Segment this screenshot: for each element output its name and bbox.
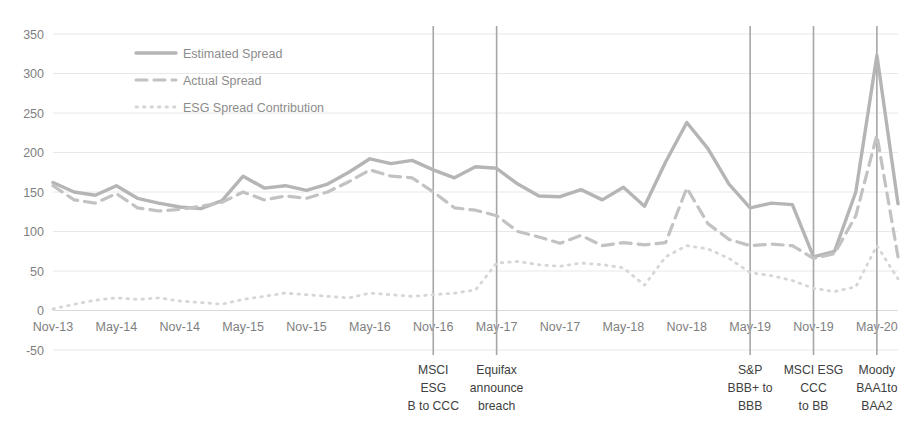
x-tick-label: May-16 — [349, 320, 391, 334]
annotation-text: Moody — [859, 363, 896, 377]
annotation-text: BBB+ to — [728, 381, 773, 395]
x-axis-tick-labels: Nov-13May-14Nov-14May-15Nov-15May-16Nov-… — [33, 320, 898, 334]
annotation-text: BBB — [738, 399, 762, 413]
x-tick-label: Nov-15 — [286, 320, 326, 334]
chart-legend: Estimated SpreadActual SpreadESG Spread … — [136, 47, 324, 115]
annotation-text: announce — [470, 381, 524, 395]
gridlines — [53, 34, 898, 350]
annotation-text: breach — [478, 399, 515, 413]
annotation-text: to BB — [799, 399, 829, 413]
annotation-text: B to CCC — [408, 399, 460, 413]
y-tick-label: 300 — [23, 67, 44, 81]
event-annotations: MSCIESGB to CCCEquifaxannouncebreachS&PB… — [408, 363, 898, 413]
y-tick-label: 50 — [30, 265, 44, 279]
series-line-solid — [53, 55, 898, 256]
y-tick-label: 200 — [23, 146, 44, 160]
annotation-text: Equifax — [476, 363, 517, 377]
spread-chart: -50050100150200250300350 Nov-13May-14Nov… — [0, 0, 911, 442]
legend-label: Actual Spread — [183, 74, 262, 88]
x-tick-label: May-15 — [222, 320, 264, 334]
x-tick-label: Nov-13 — [33, 320, 73, 334]
annotation-text: BAA1to — [856, 381, 898, 395]
y-tick-label: 100 — [23, 225, 44, 239]
x-tick-label: May-18 — [603, 320, 645, 334]
chart-canvas: -50050100150200250300350 Nov-13May-14Nov… — [0, 0, 911, 442]
x-tick-label: Nov-17 — [540, 320, 580, 334]
legend-label: Estimated Spread — [183, 47, 282, 61]
y-axis-tick-labels: -50050100150200250300350 — [23, 28, 44, 358]
annotation-text: BAA2 — [861, 399, 892, 413]
series-line-dashed — [53, 135, 898, 258]
annotation-text: MSCI ESG — [784, 363, 844, 377]
y-tick-label: 0 — [37, 304, 44, 318]
x-tick-label: Nov-14 — [160, 320, 200, 334]
event-marker-lines — [433, 26, 877, 355]
annotation-text: S&P — [738, 363, 762, 377]
legend-label: ESG Spread Contribution — [183, 101, 324, 115]
annotation-text: MSCI — [418, 363, 448, 377]
x-tick-label: May-14 — [96, 320, 138, 334]
y-tick-label: 250 — [23, 107, 44, 121]
y-tick-label: 150 — [23, 186, 44, 200]
annotation-text: ESG — [420, 381, 446, 395]
x-tick-label: Nov-18 — [667, 320, 707, 334]
annotation-text: CCC — [800, 381, 827, 395]
y-tick-label: 350 — [23, 28, 44, 42]
series-line-dotted — [53, 246, 898, 309]
y-tick-label: -50 — [26, 344, 44, 358]
